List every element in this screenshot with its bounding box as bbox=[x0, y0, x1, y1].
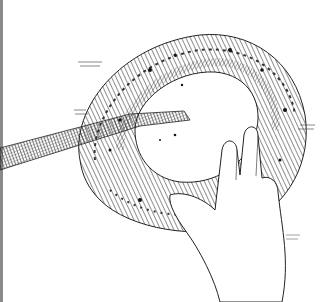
ink-illustration bbox=[0, 0, 320, 302]
illustration-frame: Pen-and-ink illustration of a hand holdi… bbox=[0, 0, 320, 302]
